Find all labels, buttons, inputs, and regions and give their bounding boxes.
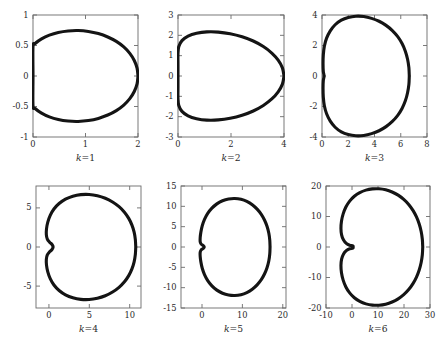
y-tick-label: -2: [165, 111, 173, 121]
panel-caption: k=1: [76, 152, 95, 163]
y-tick-label: 2: [312, 40, 317, 50]
x-tick-label: 20: [277, 310, 288, 320]
x-tick-label: 0: [349, 310, 354, 320]
panel-caption: k=4: [79, 323, 98, 334]
panel-caption: k=2: [221, 152, 240, 163]
y-tick-label: 15: [166, 181, 177, 191]
plot-box: [33, 15, 138, 137]
y-tick-label: 20: [311, 181, 322, 191]
y-tick-label: 4: [312, 10, 317, 20]
x-tick-label: 0: [175, 139, 180, 149]
y-tick-label: 5: [171, 221, 176, 231]
plot-box: [322, 15, 427, 137]
x-tick-label: -10: [319, 310, 332, 320]
panel-k-2: -3-2-10123024k=2: [144, 0, 294, 173]
x-tick-label: 5: [87, 310, 92, 320]
panel-caption: k=3: [365, 152, 384, 163]
y-tick-label: 0: [168, 71, 173, 81]
y-tick-label: -5: [23, 281, 31, 291]
plot-box: [326, 186, 430, 308]
curve-k-1: [33, 31, 138, 122]
panel-k-1: -1-0.500.51012k=1: [0, 0, 148, 173]
curve-k-3: [323, 16, 409, 136]
x-tick-label: 20: [399, 310, 410, 320]
y-tick-label: 2: [168, 30, 173, 40]
y-tick-label: 0: [171, 242, 176, 252]
y-tick-label: 5: [26, 202, 31, 212]
y-tick-label: 10: [311, 211, 322, 221]
y-tick-label: 0: [316, 242, 321, 252]
y-tick-label: 10: [166, 201, 177, 211]
curve-k-4: [46, 194, 136, 299]
y-tick-label: 0: [312, 71, 317, 81]
curve-k-6: [341, 189, 423, 306]
y-tick-label: -10: [308, 272, 321, 282]
x-tick-label: 0: [46, 310, 51, 320]
x-tick-label: 2: [135, 139, 140, 149]
y-tick-label: 3: [168, 10, 173, 20]
multi-panel-curve-figure: -1-0.500.51012k=1-3-2-10123024k=2-4-2024…: [0, 0, 443, 344]
panel-k-3: -4-202402468k=3: [288, 0, 437, 173]
y-tick-label: -15: [163, 303, 176, 313]
y-tick-label: 1: [23, 10, 28, 20]
x-tick-label: 10: [237, 310, 248, 320]
y-tick-label: -1: [20, 132, 28, 142]
panel-k-6: -20-1001020-100102030k=6: [292, 170, 440, 344]
y-tick-label: -1: [165, 91, 173, 101]
x-tick-label: 10: [373, 310, 384, 320]
x-tick-label: 8: [424, 139, 429, 149]
y-tick-label: 0: [26, 242, 31, 252]
panel-k-5: -15-10-505101501020k=5: [147, 170, 296, 344]
x-tick-label: 30: [425, 310, 436, 320]
panel-caption: k=5: [224, 323, 243, 334]
x-tick-label: 2: [346, 139, 351, 149]
y-tick-label: -3: [165, 132, 173, 142]
x-tick-label: 4: [281, 139, 286, 149]
y-tick-label: 0.5: [15, 40, 28, 50]
x-tick-label: 0: [199, 310, 204, 320]
panel-caption: k=6: [368, 323, 387, 334]
y-tick-label: 0: [23, 71, 28, 81]
x-tick-label: 6: [398, 139, 403, 149]
y-tick-label: -4: [309, 132, 317, 142]
x-tick-label: 2: [228, 139, 233, 149]
curve-k-5: [200, 199, 270, 296]
y-tick-label: -5: [168, 262, 176, 272]
x-tick-label: 0: [30, 139, 35, 149]
curve-k-2: [178, 32, 284, 120]
y-tick-label: 1: [168, 50, 173, 60]
y-tick-label: -2: [309, 101, 317, 111]
x-tick-label: 0: [319, 139, 324, 149]
panel-k-4: -5050510k=4: [2, 170, 151, 344]
x-tick-label: 1: [83, 139, 88, 149]
y-tick-label: -0.5: [13, 101, 29, 111]
x-tick-label: 10: [124, 310, 135, 320]
y-tick-label: -10: [163, 282, 176, 292]
x-tick-label: 4: [372, 139, 377, 149]
